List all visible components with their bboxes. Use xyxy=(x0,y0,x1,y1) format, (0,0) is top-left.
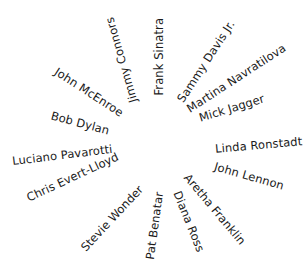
cropped-text-fragment xyxy=(18,0,58,2)
name-label: Pat Benatar xyxy=(145,191,166,260)
name-label: Frank Sinatra xyxy=(154,18,166,96)
name-label: John Lennon xyxy=(213,161,285,192)
name-wheel-diagram: Jimmy Connors Frank Sinatra Sammy Davis … xyxy=(0,0,304,268)
name-label: Bob Dylan xyxy=(50,110,111,137)
name-label: Linda Ronstadt xyxy=(214,136,302,155)
name-label: Stevie Wonder xyxy=(79,184,145,254)
name-label: Jimmy Connors xyxy=(104,16,139,104)
